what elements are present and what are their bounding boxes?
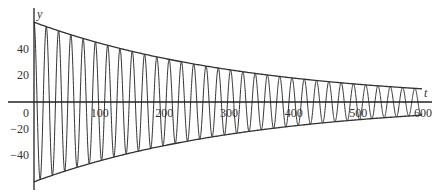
y-tick-label: −40 <box>10 148 29 162</box>
lower-envelope-curve <box>34 115 422 182</box>
y-tick-label: −20 <box>10 122 29 136</box>
x-tick-label: 500 <box>349 106 367 120</box>
x-tick-label: 200 <box>155 106 173 120</box>
x-tick-label: 600 <box>414 106 432 120</box>
x-tick-label: 400 <box>285 106 303 120</box>
x-tick-label: 300 <box>220 106 238 120</box>
y-tick-label: 40 <box>17 42 29 56</box>
y-axis-label: y <box>36 7 43 21</box>
upper-envelope-curve <box>34 22 422 89</box>
oscillation-curve <box>34 22 422 179</box>
x-tick-label: 0 <box>23 106 29 120</box>
y-tick-label: 20 <box>17 68 29 82</box>
damped-oscillation-chart: y t 0100200300400500600 4020−20−40 <box>0 0 440 193</box>
x-axis-label: t <box>424 86 428 100</box>
x-tick-label: 100 <box>91 106 109 120</box>
